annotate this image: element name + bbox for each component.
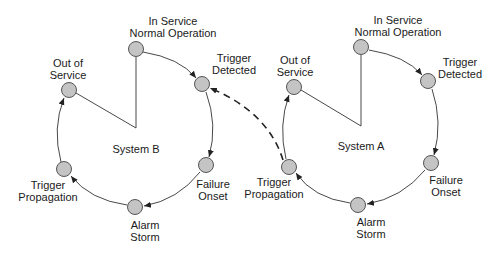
label-b-trigger-detected-1: Trigger <box>217 52 252 64</box>
label-b-trigger-detected-2: Detected <box>212 64 256 76</box>
label-b-alarm-storm-1: Alarm <box>131 219 160 231</box>
edge-a-inservice-to-trigger <box>369 50 422 75</box>
system-b-title: System B <box>112 143 159 155</box>
label-a-in-service-2: Normal Operation <box>355 26 442 38</box>
label-a-trigger-detected-2: Detected <box>438 68 482 80</box>
label-b-out-of-service-2: Service <box>50 69 87 81</box>
label-a-out-of-service-2: Service <box>277 66 314 78</box>
edge-b-failure-to-alarm <box>144 172 200 206</box>
node-b-out-of-service[interactable] <box>62 83 77 98</box>
edge-a-spoke-outofservice <box>301 90 361 126</box>
edge-a-trigger-to-failure <box>432 89 438 155</box>
label-a-failure-onset-2: Onset <box>431 186 460 198</box>
edge-b-alarm-to-propagation <box>71 176 127 205</box>
node-b-trigger-detected[interactable] <box>195 77 210 92</box>
edge-b-spoke-outofservice <box>76 93 136 128</box>
edge-a-propagation-to-outofservice <box>283 95 289 159</box>
label-a-trigger-detected-1: Trigger <box>443 56 478 68</box>
edge-a-alarm-to-propagation <box>296 173 350 203</box>
label-a-alarm-storm-2: Storm <box>356 228 385 240</box>
node-a-trigger-propagation[interactable] <box>282 160 297 175</box>
label-b-failure-onset-1: Failure <box>196 178 230 190</box>
label-b-alarm-storm-2: Storm <box>130 231 159 243</box>
label-a-alarm-storm-1: Alarm <box>357 216 386 228</box>
edge-b-propagation-to-outofservice <box>57 98 64 162</box>
label-b-trigger-propagation-2: Propagation <box>18 191 77 203</box>
label-b-failure-onset-2: Onset <box>198 190 227 202</box>
cross-link-dashed-arrow <box>210 88 283 160</box>
label-a-out-of-service-1: Out of <box>280 54 311 66</box>
node-a-trigger-detected[interactable] <box>421 74 436 89</box>
label-b-in-service-1: In Service <box>149 15 198 27</box>
edge-b-trigger-to-failure <box>206 92 213 157</box>
label-a-trigger-propagation-2: Propagation <box>244 188 303 200</box>
node-a-out-of-service[interactable] <box>287 80 302 95</box>
node-a-failure-onset[interactable] <box>424 156 439 171</box>
node-a-in-service[interactable] <box>354 40 369 55</box>
node-b-trigger-propagation[interactable] <box>57 162 72 177</box>
label-b-in-service-2: Normal Operation <box>130 27 217 39</box>
node-b-alarm-storm[interactable] <box>128 200 143 215</box>
node-b-in-service[interactable] <box>129 42 144 57</box>
label-b-trigger-propagation-1: Trigger <box>31 179 66 191</box>
label-b-out-of-service-1: Out of <box>53 57 84 69</box>
edge-a-failure-to-alarm <box>367 170 425 204</box>
diagram-canvas: In Service Normal Operation Trigger Dete… <box>0 0 499 254</box>
edge-b-inservice-to-trigger <box>143 52 196 78</box>
label-a-trigger-propagation-1: Trigger <box>257 176 292 188</box>
node-a-alarm-storm[interactable] <box>351 198 366 213</box>
label-a-in-service-1: In Service <box>374 14 423 26</box>
label-a-failure-onset-1: Failure <box>429 174 463 186</box>
system-a: In Service Normal Operation Trigger Dete… <box>244 14 482 240</box>
system-a-title: System A <box>338 140 385 152</box>
system-b: In Service Normal Operation Trigger Dete… <box>18 15 256 243</box>
node-b-failure-onset[interactable] <box>199 158 214 173</box>
